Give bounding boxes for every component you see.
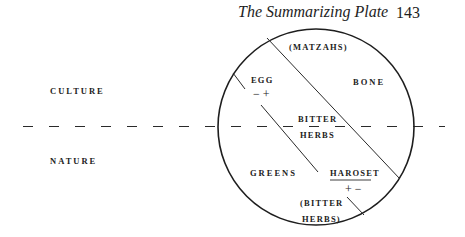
matzahs-label: (MATZAHS): [289, 42, 348, 52]
haroset-divider-tick: [347, 197, 364, 215]
egg-signs: − +: [253, 87, 270, 101]
bitter-herbs-label-line2: HERBS: [300, 130, 335, 140]
culture-label: CULTURE: [50, 86, 105, 96]
greens-label: GREENS: [250, 168, 297, 178]
egg-label: EGG: [251, 75, 274, 85]
plate-diagonal-main: [267, 38, 400, 179]
bone-label: BONE: [353, 77, 385, 87]
bitter-herbs-label-line1: BITTER: [298, 114, 337, 124]
nature-label: NATURE: [50, 156, 97, 166]
bitter-herbs-paren-line2: HERBS): [302, 214, 341, 224]
haroset-label: HAROSET: [330, 168, 380, 178]
bitter-herbs-paren-line1: (BITTER: [300, 198, 343, 208]
haroset-signs: + −: [345, 182, 362, 196]
seder-plate-diagram: CULTURE NATURE (MATZAHS) BONE EGG − + BI…: [0, 0, 465, 237]
egg-divider-tick: [233, 73, 245, 89]
